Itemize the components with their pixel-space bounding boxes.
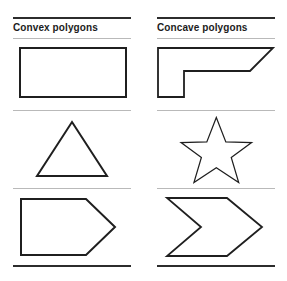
row-divider-2	[13, 188, 131, 189]
column-title-concave: Concave polygons	[157, 22, 248, 33]
shape-cell-notched-arrow	[152, 42, 282, 110]
shape-notched-arrow	[158, 48, 273, 97]
row-divider-1	[157, 110, 275, 111]
column-bottom-rule	[157, 265, 275, 267]
shape-rectangle	[20, 48, 126, 97]
column-convex: Convex polygons	[8, 0, 138, 281]
column-top-rule	[157, 17, 275, 19]
shape-cell-star	[152, 112, 282, 188]
row-divider-2	[157, 188, 275, 189]
shape-cell-triangle	[8, 112, 138, 188]
shape-triangle	[37, 122, 107, 176]
column-bottom-rule	[13, 265, 131, 267]
shape-chevron	[167, 198, 262, 256]
column-title-underline	[13, 38, 131, 39]
column-title-underline	[157, 38, 275, 39]
column-top-rule	[13, 17, 131, 19]
shape-cell-chevron	[152, 190, 282, 265]
column-concave: Concave polygons	[152, 0, 282, 281]
row-divider-1	[13, 110, 131, 111]
shape-cell-pentagon	[8, 190, 138, 265]
shape-star	[181, 117, 252, 182]
polygon-comparison-figure: Convex polygons Concave polygons	[0, 0, 287, 281]
column-title-convex: Convex polygons	[13, 22, 98, 33]
shape-cell-rectangle	[8, 42, 138, 110]
shape-pentagon	[21, 199, 115, 255]
